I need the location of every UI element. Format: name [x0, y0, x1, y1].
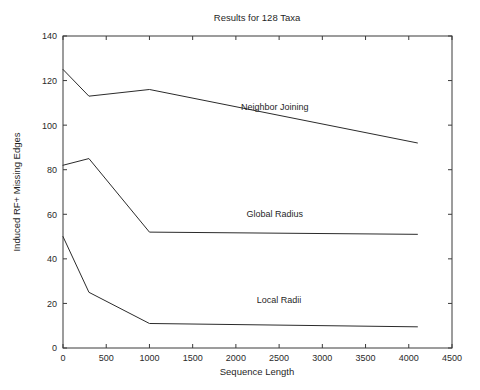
- x-tick-label-9: 4500: [442, 353, 462, 363]
- series-label-0: Neighbor Joining: [241, 102, 309, 112]
- chart-plot: 0500100015002000250030003500400045000204…: [0, 0, 480, 390]
- x-tick-label-8: 4000: [399, 353, 419, 363]
- x-tick-label-7: 3500: [356, 353, 376, 363]
- y-axis-title: Induced RF+ Missing Edges: [11, 132, 22, 251]
- x-tick-label-4: 2000: [226, 353, 246, 363]
- x-tick-label-3: 1500: [183, 353, 203, 363]
- y-tick-label-2: 40: [47, 254, 57, 264]
- chart-title: Results for 128 Taxa: [214, 12, 301, 23]
- chart-figure: 0500100015002000250030003500400045000204…: [0, 0, 480, 390]
- series-line-2: [63, 237, 417, 327]
- x-axis-title: Sequence Length: [220, 366, 294, 377]
- series-label-1: Global Radius: [247, 209, 304, 219]
- series-line-1: [63, 159, 417, 235]
- y-tick-label-4: 80: [47, 165, 57, 175]
- x-tick-label-5: 2500: [269, 353, 289, 363]
- y-tick-label-6: 120: [42, 76, 57, 86]
- x-tick-label-0: 0: [60, 353, 65, 363]
- y-tick-label-1: 20: [47, 299, 57, 309]
- y-tick-label-3: 60: [47, 210, 57, 220]
- x-tick-label-1: 500: [99, 353, 114, 363]
- series-label-2: Local Radii: [257, 295, 302, 305]
- series-annotations: Neighbor JoiningGlobal RadiusLocal Radii: [241, 102, 309, 306]
- y-tick-label-7: 140: [42, 31, 57, 41]
- y-tick-label-5: 100: [42, 121, 57, 131]
- y-tick-label-0: 0: [52, 343, 57, 353]
- axis-tick-labels: 0500100015002000250030003500400045000204…: [42, 31, 462, 363]
- x-tick-label-6: 3000: [312, 353, 332, 363]
- x-tick-label-2: 1000: [139, 353, 159, 363]
